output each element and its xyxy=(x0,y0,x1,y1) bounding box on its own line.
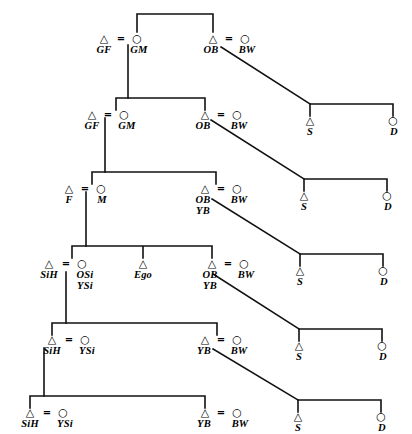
node-label-elder: OSi xyxy=(77,270,94,281)
sibling-bar-gen3-sd xyxy=(304,179,387,191)
node-label: OB xyxy=(204,45,219,56)
node-label: D xyxy=(390,127,398,138)
node-label: GF xyxy=(85,121,100,132)
node-label: BW xyxy=(231,346,248,357)
node-label: S xyxy=(301,202,307,213)
node-label: YSi xyxy=(79,346,95,357)
marriage-equals-sign: = xyxy=(217,110,225,120)
descent-oblique-gen1-u2 xyxy=(221,47,310,104)
male-triangle-icon: △ xyxy=(209,33,217,44)
marriage-equals-sign: = xyxy=(65,335,73,345)
female-circle-icon: ○ xyxy=(377,340,387,351)
male-triangle-icon: △ xyxy=(26,407,34,418)
descent-oblique-gen5-u2 xyxy=(213,349,298,400)
sibling-bar-gen4-sd xyxy=(300,254,383,266)
node-label-younger: YB xyxy=(203,281,217,292)
male-triangle-icon: △ xyxy=(100,33,108,44)
female-circle-icon: ○ xyxy=(232,407,242,418)
node-label: OB xyxy=(196,121,211,132)
male-triangle-icon: △ xyxy=(45,258,53,269)
male-triangle-icon: △ xyxy=(201,183,209,194)
node-label: BW xyxy=(232,419,249,430)
male-triangle-icon: △ xyxy=(201,407,209,418)
node-label: D xyxy=(384,202,392,213)
male-triangle-icon: △ xyxy=(201,334,209,345)
node-label: YB xyxy=(197,419,211,430)
female-circle-icon: ○ xyxy=(239,258,249,269)
node-label: F xyxy=(65,195,72,206)
sibling-bar-gen5 xyxy=(52,323,217,335)
node-label: BW xyxy=(238,270,255,281)
node-label: S xyxy=(297,277,303,288)
node-label: GM xyxy=(130,45,147,56)
male-triangle-icon: △ xyxy=(295,340,303,351)
female-circle-icon: ○ xyxy=(77,258,87,269)
marriage-equals-sign: = xyxy=(62,259,70,269)
descent-oblique-gen4-u2 xyxy=(213,274,299,329)
male-triangle-icon: △ xyxy=(300,190,308,201)
marriage-equals-sign: = xyxy=(225,34,233,44)
sibling-bar-gen5-sd xyxy=(299,329,382,341)
female-circle-icon: ○ xyxy=(58,407,68,418)
sibling-bar-gen2-sd xyxy=(310,104,393,116)
male-triangle-icon: △ xyxy=(306,115,314,126)
node-label-elder: OB xyxy=(196,195,211,206)
marriage-equals-sign: = xyxy=(43,408,51,418)
female-circle-icon: ○ xyxy=(388,115,398,126)
node-label: S xyxy=(295,423,301,434)
female-circle-icon: ○ xyxy=(232,183,242,194)
female-circle-icon: ○ xyxy=(240,33,250,44)
sibling-bar-gen6-sd xyxy=(298,400,381,412)
marriage-equals-sign: = xyxy=(217,408,225,418)
node-label: D xyxy=(378,423,386,434)
node-label: D xyxy=(379,352,387,363)
node-label: S xyxy=(296,352,302,363)
node-label: GF xyxy=(97,45,112,56)
marriage-equals-sign: = xyxy=(217,335,225,345)
female-circle-icon: ○ xyxy=(80,334,90,345)
female-circle-icon: ○ xyxy=(132,33,142,44)
female-circle-icon: ○ xyxy=(232,109,242,120)
node-label: M xyxy=(97,195,107,206)
marriage-equals-sign: = xyxy=(81,184,89,194)
ego-label: Ego xyxy=(134,270,152,281)
female-circle-icon: ○ xyxy=(96,183,106,194)
male-triangle-icon: △ xyxy=(65,183,73,194)
descent-oblique-gen3-u2 xyxy=(212,199,300,254)
node-label-elder: OB xyxy=(203,270,218,281)
node-label: SiH xyxy=(43,346,61,357)
descent-oblique-gen2-u2 xyxy=(211,120,304,179)
male-triangle-icon: △ xyxy=(88,109,96,120)
node-label: S xyxy=(307,127,313,138)
marriage-equals-sign: = xyxy=(224,259,232,269)
node-label: BW xyxy=(231,195,248,206)
male-triangle-icon: △ xyxy=(201,109,209,120)
node-label: YSi xyxy=(57,419,73,430)
marriage-equals-sign: = xyxy=(104,110,112,120)
node-label: BW xyxy=(239,45,256,56)
male-triangle-icon: △ xyxy=(294,411,302,422)
sibling-bar-gen6 xyxy=(30,396,205,408)
male-triangle-icon: △ xyxy=(139,258,147,269)
male-triangle-icon: △ xyxy=(48,334,56,345)
male-triangle-icon: △ xyxy=(208,258,216,269)
node-label: SiH xyxy=(21,419,39,430)
male-triangle-icon: △ xyxy=(296,265,304,276)
sibling-bar-gen3 xyxy=(92,172,216,184)
kinship-connector-lines xyxy=(0,0,412,434)
sibling-bar-gen1 xyxy=(137,14,213,32)
female-circle-icon: ○ xyxy=(376,411,386,422)
node-label-younger: YSi xyxy=(77,281,93,292)
node-label: BW xyxy=(231,121,248,132)
node-label: SiH xyxy=(40,270,58,281)
sibling-bar-gen2 xyxy=(116,98,205,110)
node-label: D xyxy=(380,277,388,288)
marriage-equals-sign: = xyxy=(217,184,225,194)
marriage-equals-sign: = xyxy=(117,34,125,44)
node-label-younger: YB xyxy=(196,206,210,217)
node-label: GM xyxy=(118,121,135,132)
female-circle-icon: ○ xyxy=(382,190,392,201)
female-circle-icon: ○ xyxy=(232,334,242,345)
female-circle-icon: ○ xyxy=(378,265,388,276)
node-label: YB xyxy=(197,346,211,357)
